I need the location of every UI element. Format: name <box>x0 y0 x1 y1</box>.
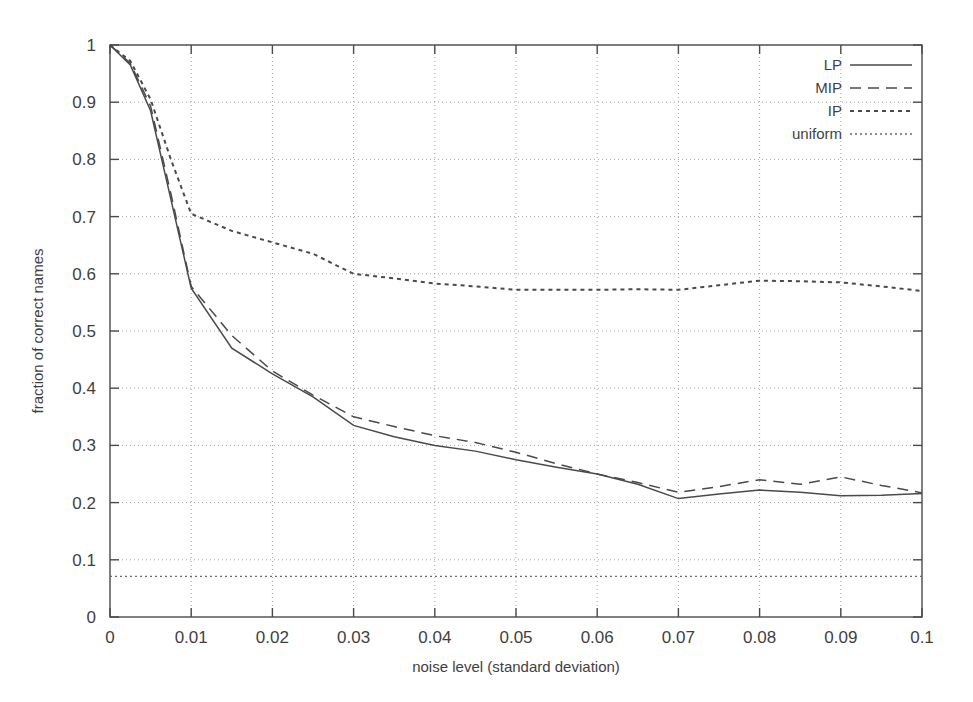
x-tick-label: 0.03 <box>337 628 370 647</box>
x-tick-label: 0.1 <box>910 628 934 647</box>
x-axis-tick-labels: 00.010.020.030.040.050.060.070.080.090.1 <box>105 628 934 647</box>
x-tick-label: 0.06 <box>581 628 614 647</box>
x-tick-label: 0.02 <box>256 628 289 647</box>
y-tick-label: 0.7 <box>72 208 96 227</box>
y-tick-label: 0.3 <box>72 436 96 455</box>
y-axis-tick-labels: 00.10.20.30.40.50.60.70.80.91 <box>72 36 96 627</box>
y-tick-label: 0.2 <box>72 494 96 513</box>
y-tick-label: 0 <box>87 608 96 627</box>
x-tick-label: 0.09 <box>824 628 857 647</box>
x-axis-title: noise level (standard deviation) <box>412 658 620 675</box>
chart-legend: LPMIPIPuniform <box>792 56 912 142</box>
y-tick-label: 1 <box>87 36 96 55</box>
y-tick-label: 0.9 <box>72 93 96 112</box>
legend-label-uniform: uniform <box>792 125 842 142</box>
y-tick-label: 0.4 <box>72 379 96 398</box>
legend-label-mip: MIP <box>815 79 842 96</box>
x-tick-label: 0.07 <box>662 628 695 647</box>
legend-label-lp: LP <box>824 56 842 73</box>
x-tick-label: 0.01 <box>175 628 208 647</box>
y-axis-title: fraction of correct names <box>29 248 46 413</box>
y-tick-label: 0.5 <box>72 322 96 341</box>
y-tick-label: 0.8 <box>72 150 96 169</box>
y-tick-label: 0.1 <box>72 551 96 570</box>
x-tick-label: 0.04 <box>418 628 451 647</box>
legend-label-ip: IP <box>828 102 842 119</box>
x-tick-label: 0 <box>105 628 114 647</box>
chart-container: 00.010.020.030.040.050.060.070.080.090.1… <box>0 0 973 702</box>
x-tick-label: 0.08 <box>743 628 776 647</box>
line-chart: 00.010.020.030.040.050.060.070.080.090.1… <box>0 0 973 702</box>
x-tick-label: 0.05 <box>499 628 532 647</box>
y-tick-label: 0.6 <box>72 265 96 284</box>
